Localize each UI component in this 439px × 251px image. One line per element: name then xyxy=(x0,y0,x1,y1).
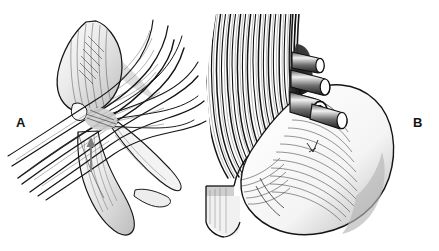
figure-root: A B xyxy=(0,0,439,251)
anatomical-illustration-canvas xyxy=(0,0,439,251)
panel-a-label: A xyxy=(16,116,25,129)
panel-b-label: B xyxy=(413,116,422,129)
